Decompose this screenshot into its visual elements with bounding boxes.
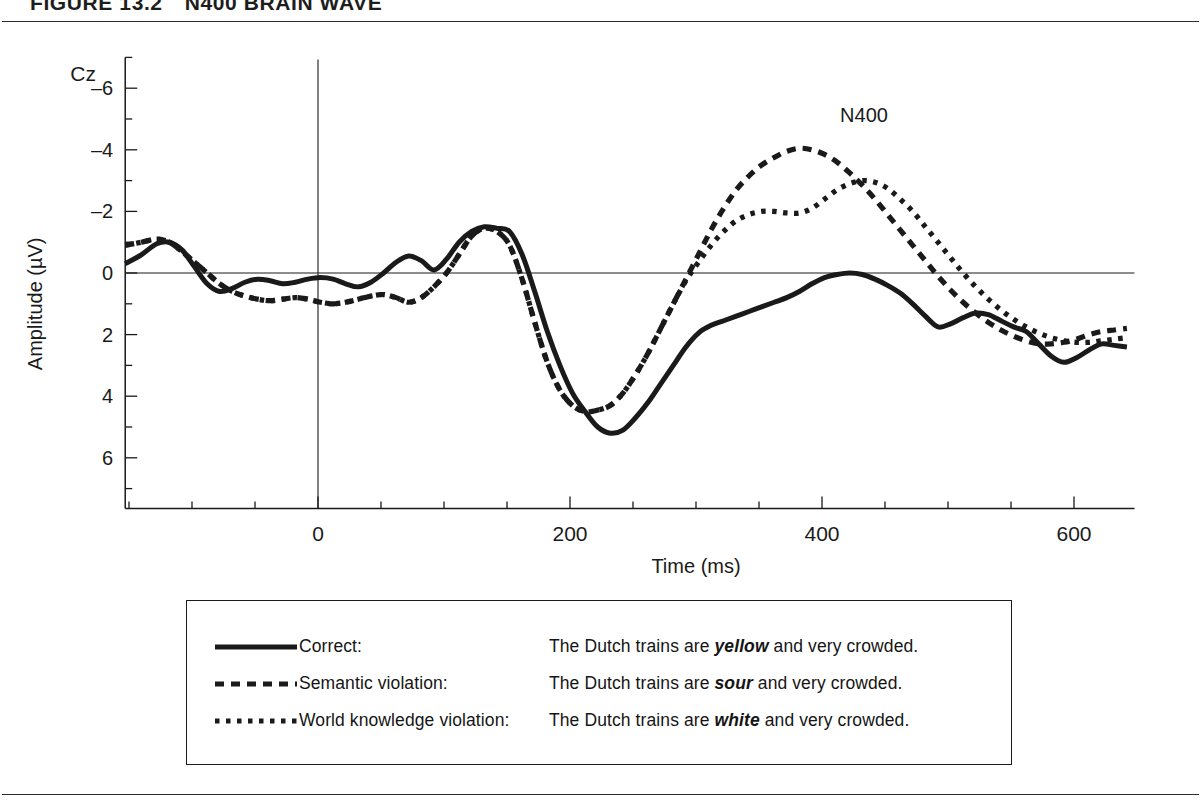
y-tick-label: 4 (102, 385, 113, 407)
figure-caption: FIGURE 13.2N400 BRAIN WAVE (30, 0, 382, 15)
sentence-critical-word: yellow (715, 636, 769, 656)
legend-sentence: The Dutch trains are sour and very crowd… (549, 673, 903, 694)
legend-label: World knowledge violation: (299, 710, 549, 731)
x-tick-label: 600 (1056, 522, 1091, 545)
y-axis-title: Amplitude (µV) (24, 237, 46, 370)
solid-line-sample-glyph (213, 642, 299, 652)
series-curve-solid (125, 227, 1127, 434)
y-tick-label: 0 (102, 262, 113, 284)
dashed-line-sample (187, 679, 299, 689)
y-tick-label: –4 (91, 139, 113, 161)
figure-title: N400 BRAIN WAVE (185, 0, 383, 14)
footer-rule (2, 794, 1199, 795)
legend-sentence: The Dutch trains are white and very crow… (549, 710, 909, 731)
sentence-prefix: The Dutch trains are (549, 673, 715, 693)
sentence-prefix: The Dutch trains are (549, 710, 715, 730)
erp-plot: –6–4–202460200400600Time (ms)Amplitude (… (0, 24, 1201, 584)
electrode-label: Cz (70, 62, 96, 85)
sentence-prefix: The Dutch trains are (549, 636, 715, 656)
legend-sentence: The Dutch trains are yellow and very cro… (549, 636, 918, 657)
figure-root: FIGURE 13.2N400 BRAIN WAVE –6–4–20246020… (0, 0, 1201, 809)
sentence-critical-word: sour (715, 673, 753, 693)
x-tick-label: 0 (312, 522, 324, 545)
legend-row: Correct:The Dutch trains are yellow and … (187, 628, 1011, 665)
legend-box: Correct:The Dutch trains are yellow and … (186, 600, 1012, 765)
header-rule (2, 21, 1199, 22)
curves-layer (125, 148, 1127, 433)
legend-rows: Correct:The Dutch trains are yellow and … (187, 601, 1011, 764)
y-tick-label: –2 (91, 200, 113, 222)
legend-label: Semantic violation: (299, 673, 549, 694)
solid-line-sample (187, 642, 299, 652)
dotted-line-sample-glyph (213, 716, 299, 726)
erp-plot-svg: –6–4–202460200400600Time (ms)Amplitude (… (0, 24, 1201, 584)
sentence-suffix: and very crowded. (769, 636, 919, 656)
sentence-suffix: and very crowded. (753, 673, 903, 693)
figure-number: FIGURE 13.2 (30, 0, 163, 14)
legend-row: World knowledge violation:The Dutch trai… (187, 702, 1011, 739)
sentence-suffix: and very crowded. (760, 710, 910, 730)
legend-label: Correct: (299, 636, 549, 657)
sentence-critical-word: white (715, 710, 760, 730)
series-curve-dotted (125, 181, 1127, 412)
x-tick-label: 200 (552, 522, 587, 545)
legend-row: Semantic violation:The Dutch trains are … (187, 665, 1011, 702)
y-tick-label: 6 (102, 447, 113, 469)
annotation-n400: N400 (840, 104, 888, 126)
x-tick-label: 400 (804, 522, 839, 545)
y-tick-label: 2 (102, 324, 113, 346)
dotted-line-sample (187, 716, 299, 726)
dashed-line-sample-glyph (213, 679, 299, 689)
x-axis-title: Time (ms) (651, 555, 740, 577)
